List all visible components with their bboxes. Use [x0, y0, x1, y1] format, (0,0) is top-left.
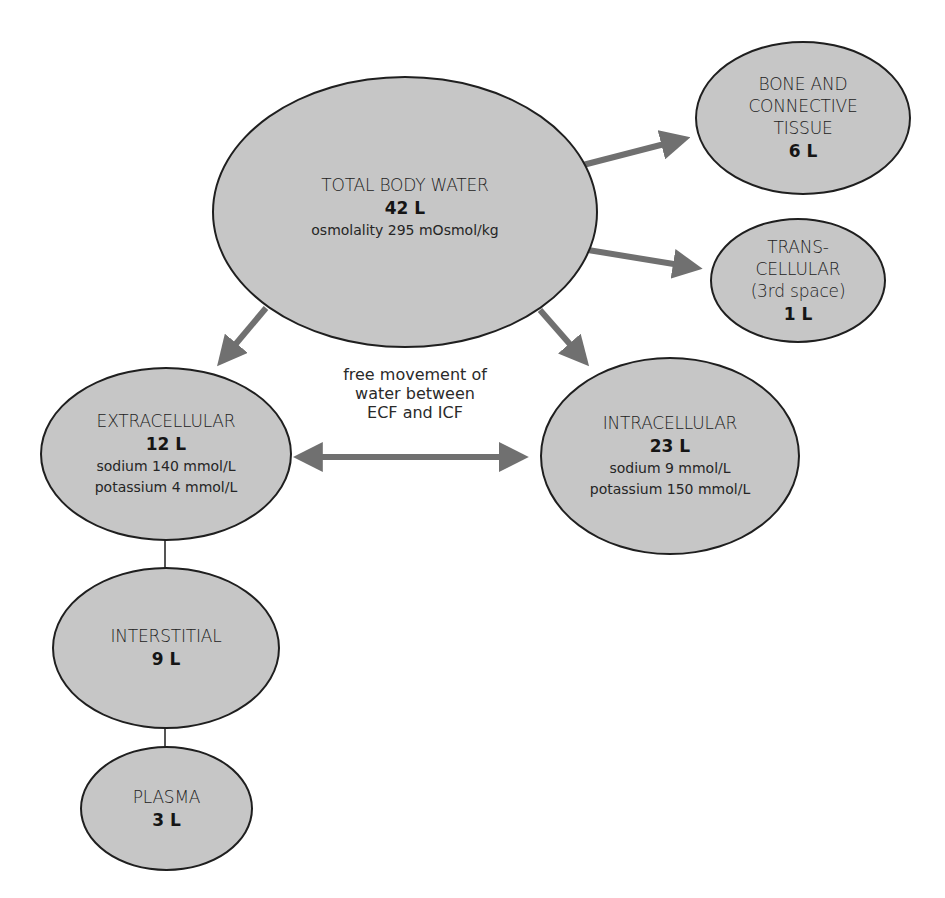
bone-title-line-1: BONE AND	[759, 73, 848, 95]
arrow-tbw-to-bone	[583, 140, 680, 165]
arrow-tbw-to-intracellular	[540, 310, 582, 358]
exchange-label-line-2: water between	[305, 384, 525, 403]
intracellular-sodium: sodium 9 mmol/L	[609, 458, 730, 479]
node-extracellular: EXTRACELLULAR 12 L sodium 140 mmol/L pot…	[40, 367, 292, 541]
extracellular-title: EXTRACELLULAR	[97, 410, 236, 432]
intracellular-potassium: potassium 150 mmol/L	[590, 479, 750, 500]
tbw-osmolality: osmolality 295 mOsmol/kg	[311, 220, 498, 241]
transcellular-title-line-2: CELLULAR	[756, 258, 841, 280]
transcellular-title-line-1: TRANS-	[767, 236, 829, 258]
extracellular-sodium: sodium 140 mmol/L	[96, 456, 235, 477]
extracellular-volume: 12 L	[146, 432, 186, 456]
arrow-tbw-to-transcellular	[588, 250, 692, 267]
arrow-tbw-to-extracellular	[224, 308, 266, 358]
node-bone-connective-tissue: BONE AND CONNECTIVE TISSUE 6 L	[695, 41, 911, 195]
exchange-label-line-3: ECF and ICF	[305, 403, 525, 422]
extracellular-potassium: potassium 4 mmol/L	[95, 477, 238, 498]
bone-title-line-2: CONNECTIVE	[748, 95, 857, 117]
node-intracellular: INTRACELLULAR 23 L sodium 9 mmol/L potas…	[540, 357, 800, 555]
bone-volume: 6 L	[789, 139, 818, 163]
plasma-title: PLASMA	[133, 786, 201, 808]
ecf-icf-exchange-label: free movement of water between ECF and I…	[305, 365, 525, 422]
exchange-label-line-1: free movement of	[305, 365, 525, 384]
tbw-title: TOTAL BODY WATER	[321, 174, 488, 196]
tbw-volume: 42 L	[385, 196, 425, 220]
node-interstitial: INTERSTITIAL 9 L	[52, 567, 280, 729]
plasma-volume: 3 L	[152, 808, 181, 832]
bone-title-line-3: TISSUE	[774, 117, 833, 139]
intracellular-volume: 23 L	[650, 434, 690, 458]
node-plasma: PLASMA 3 L	[80, 746, 253, 871]
interstitial-title: INTERSTITIAL	[111, 625, 222, 647]
node-transcellular: TRANS- CELLULAR (3rd space) 1 L	[710, 218, 886, 343]
node-total-body-water: TOTAL BODY WATER 42 L osmolality 295 mOs…	[212, 76, 598, 348]
interstitial-volume: 9 L	[152, 647, 181, 671]
transcellular-volume: 1 L	[784, 302, 813, 326]
transcellular-title-line-3: (3rd space)	[751, 280, 846, 302]
intracellular-title: INTRACELLULAR	[603, 412, 737, 434]
